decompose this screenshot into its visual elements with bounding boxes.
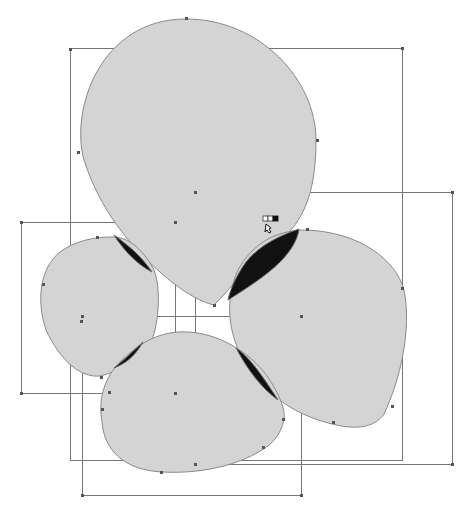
drawing-canvas[interactable]: [0, 0, 471, 512]
shapes: [41, 19, 407, 472]
